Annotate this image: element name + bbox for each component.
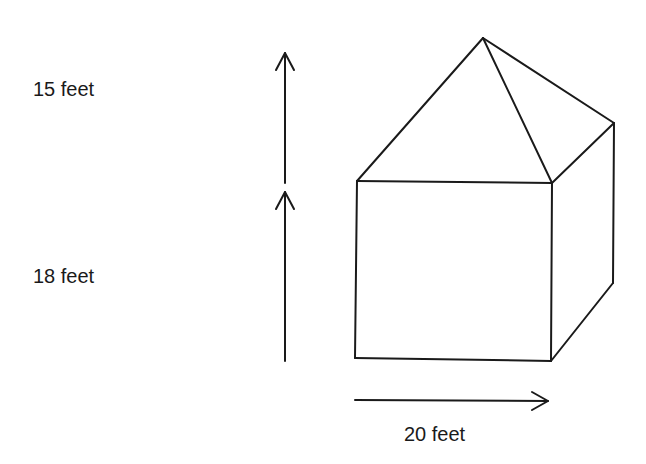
- roof-height-label: 15 feet: [33, 78, 94, 101]
- prism-front-face: [355, 181, 552, 361]
- pyramid-roof: [357, 38, 614, 183]
- house-diagram: 15 feet 18 feet 20 feet: [0, 0, 646, 464]
- prism-side-face: [551, 123, 614, 361]
- house-figure: [0, 0, 646, 464]
- wall-height-arrow: [276, 192, 294, 361]
- width-label: 20 feet: [404, 423, 465, 446]
- wall-height-label: 18 feet: [33, 265, 94, 288]
- roof-height-arrow: [276, 53, 294, 183]
- width-arrow: [355, 392, 548, 410]
